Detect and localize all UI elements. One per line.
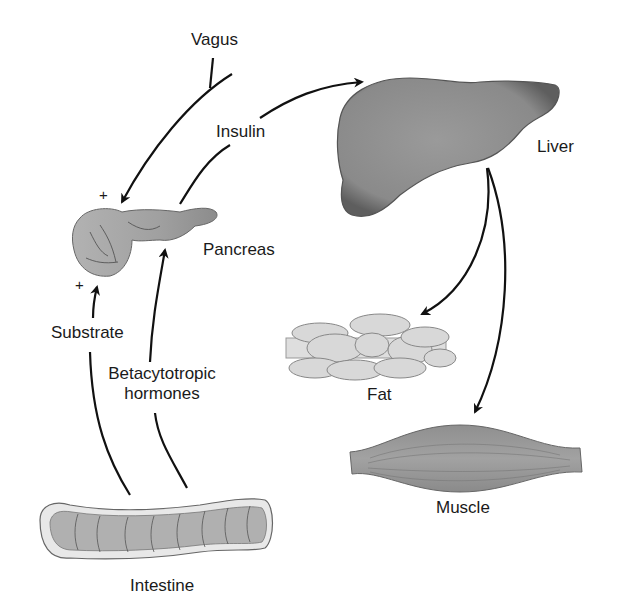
- pancreas-label: Pancreas: [203, 240, 275, 260]
- intestine-label: Intestine: [130, 576, 194, 596]
- betacytotropic-label-line1: Betacytotropic: [97, 364, 227, 384]
- muscle-label: Muscle: [436, 498, 490, 518]
- betacytotropic-arrow-upper: [150, 250, 165, 362]
- betacytotropic-hormones-label: Betacytotropic hormones: [97, 364, 227, 403]
- liver-label: Liver: [537, 137, 574, 157]
- substrate-arrow-upper: [93, 287, 97, 318]
- substrate-plus-sign: +: [75, 276, 84, 293]
- betacytotropic-arrow-lower: [155, 413, 187, 488]
- fat-tissue-shape: [286, 314, 456, 380]
- pancreas-shape: [72, 208, 217, 276]
- vagus-plus-sign: +: [99, 186, 108, 203]
- liver-to-fat-arrow: [422, 168, 488, 314]
- betacytotropic-label-line2: hormones: [97, 384, 227, 404]
- vagus-label: Vagus: [191, 30, 238, 50]
- vagus-branch: [210, 58, 213, 88]
- insulin-regulation-diagram: [0, 0, 618, 609]
- liver-to-muscle-arrow: [475, 168, 505, 412]
- muscle-shape: [350, 425, 582, 492]
- insulin-arrow-lower: [180, 145, 230, 204]
- fat-label: Fat: [367, 385, 392, 405]
- substrate-label: Substrate: [51, 323, 124, 343]
- liver-shape: [337, 78, 559, 216]
- insulin-label: Insulin: [216, 122, 265, 142]
- intestine-shape: [40, 499, 273, 559]
